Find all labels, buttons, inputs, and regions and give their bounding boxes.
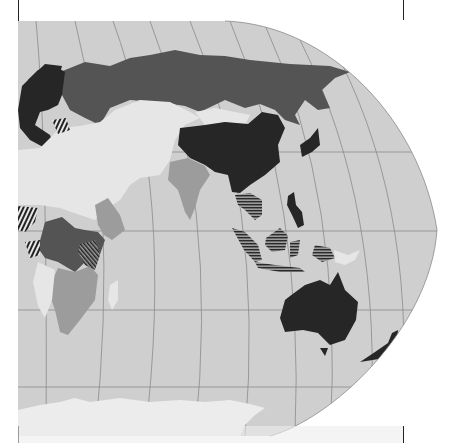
world-map <box>0 0 449 443</box>
globe <box>0 0 449 443</box>
bottom-strip <box>18 426 403 443</box>
